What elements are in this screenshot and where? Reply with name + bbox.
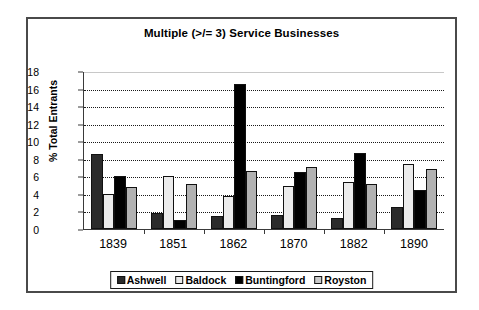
x-axis-tick-mark [384,229,385,234]
chart-legend: AshwellBaldockBuntingfordRoyston [110,271,374,289]
y-axis-tick-label: 16 [17,84,39,96]
legend-label-baldock: Baldock [185,274,226,286]
bar-group-1862 [204,72,264,229]
y-axis-tick-label: 2 [17,206,39,218]
y-axis-tick-mark [78,72,83,73]
y-axis-tick-mark [78,212,83,213]
bar-royston-1862[interactable] [246,171,258,229]
x-axis-tick-mark [144,229,145,234]
bar-buntingford-1882[interactable] [354,153,366,229]
y-axis-tick-mark [78,159,83,160]
bar-ashwell-1882[interactable] [331,218,343,229]
y-axis-tick-mark [78,177,83,178]
bar-royston-1870[interactable] [306,167,318,229]
y-axis-tick-label: 10 [17,136,39,148]
bar-group-1870 [264,72,324,229]
y-axis-tick-mark [78,194,83,195]
bar-royston-1839[interactable] [126,187,138,229]
bar-group-1882 [324,72,384,229]
bar-ashwell-1839[interactable] [91,154,103,229]
bar-royston-1890[interactable] [426,169,438,229]
bar-group-1890 [384,72,444,229]
legend-swatch-buntingford-icon [235,276,243,284]
legend-item-buntingford[interactable]: Buntingford [235,274,305,286]
bar-baldock-1890[interactable] [403,164,415,229]
y-axis-tick-mark [78,124,83,125]
chart-frame: Multiple (>/= 3) Service Businesses % To… [26,17,457,293]
legend-item-baldock[interactable]: Baldock [175,274,226,286]
bar-buntingford-1870[interactable] [294,172,306,229]
bar-baldock-1839[interactable] [103,194,115,229]
x-axis-tick-label-1862: 1862 [203,237,263,251]
bar-baldock-1851[interactable] [163,176,175,229]
x-axis-tick-mark [324,229,325,234]
bar-buntingford-1851[interactable] [174,220,186,229]
bar-ashwell-1862[interactable] [211,216,223,229]
y-axis-tick-label: 0 [17,224,39,236]
x-axis-tick-label-1882: 1882 [324,237,384,251]
bar-ashwell-1870[interactable] [271,215,283,229]
y-axis-tick-label: 12 [17,119,39,131]
x-axis-tick-mark [204,229,205,234]
y-axis-tick-label: 14 [17,101,39,113]
x-axis-tick-label-1890: 1890 [384,237,444,251]
legend-swatch-baldock-icon [175,276,183,284]
legend-label-ashwell: Ashwell [127,274,167,286]
bar-group-1839 [84,72,144,229]
legend-swatch-royston-icon [314,276,322,284]
y-axis-tick-mark [78,230,83,231]
bar-royston-1851[interactable] [186,184,198,229]
legend-label-buntingford: Buntingford [245,274,305,286]
bar-buntingford-1862[interactable] [234,84,246,229]
bar-ashwell-1851[interactable] [151,213,163,229]
legend-swatch-ashwell-icon [117,276,125,284]
bar-baldock-1870[interactable] [283,186,295,229]
y-axis-tick-mark [78,107,83,108]
bar-group-1851 [144,72,204,229]
bar-buntingford-1839[interactable] [114,176,126,229]
y-axis-tick-mark [78,89,83,90]
plot-area [83,72,444,230]
bar-groups [84,72,444,229]
bar-ashwell-1890[interactable] [391,207,403,229]
legend-label-royston: Royston [324,274,366,286]
bar-baldock-1882[interactable] [343,182,355,229]
x-axis-tick-label-1870: 1870 [264,237,324,251]
y-axis-title: % Total Entrants [47,61,59,181]
x-axis-tick-label-1851: 1851 [143,237,203,251]
bar-royston-1882[interactable] [366,184,378,229]
x-axis-tick-label-1839: 1839 [83,237,143,251]
legend-item-royston[interactable]: Royston [314,274,366,286]
chart-title: Multiple (>/= 3) Service Businesses [28,27,455,39]
y-axis-tick-mark [78,142,83,143]
y-axis-tick-label: 6 [17,171,39,183]
legend-item-ashwell[interactable]: Ashwell [117,274,167,286]
y-axis-tick-label: 4 [17,189,39,201]
x-axis-tick-mark [264,229,265,234]
bar-baldock-1862[interactable] [223,196,235,229]
y-axis-tick-label: 18 [17,66,39,78]
bar-buntingford-1890[interactable] [414,190,426,230]
x-axis-tick-labels: 183918511862187018821890 [83,237,444,251]
y-axis-tick-label: 8 [17,154,39,166]
